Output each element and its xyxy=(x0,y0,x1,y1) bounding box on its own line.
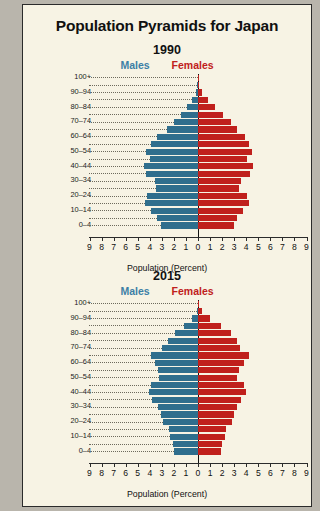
bar-female xyxy=(198,222,234,228)
leader-line xyxy=(89,159,150,160)
bar-male xyxy=(170,434,198,440)
bar-female xyxy=(198,434,225,440)
age-group-label: 20–24 xyxy=(31,190,91,199)
axis-tick xyxy=(150,463,151,467)
axis-tick xyxy=(198,237,199,241)
bar-female xyxy=(198,389,246,395)
axis-tick xyxy=(150,237,151,241)
axis-tick xyxy=(210,463,211,467)
leader-line xyxy=(89,311,197,312)
leader-line xyxy=(89,370,158,371)
bar-female xyxy=(198,215,237,221)
axis-tick xyxy=(138,237,139,241)
axis-tick-label: 9 xyxy=(300,468,314,478)
bar-rows-1990: 100+90–9480–8470–7460–6450–5440–4430–342… xyxy=(23,74,313,237)
bar-male xyxy=(146,171,198,177)
age-group-label: 40–44 xyxy=(31,387,91,396)
plot-area-2015: 100+90–9480–8470–7460–6450–5440–4430–342… xyxy=(23,300,311,463)
legend-males: Males xyxy=(120,59,149,71)
bar-male xyxy=(152,397,198,403)
axis-tick-label: 9 xyxy=(300,242,314,252)
axis-tick xyxy=(138,463,139,467)
axis-tick xyxy=(210,237,211,241)
axis-tick xyxy=(258,463,259,467)
bar-female xyxy=(198,404,237,410)
bar-male xyxy=(167,126,198,132)
age-group-label: 10–14 xyxy=(31,431,91,440)
leader-line xyxy=(89,399,152,400)
bar-female xyxy=(198,352,249,358)
leader-line xyxy=(89,451,174,452)
bar-male xyxy=(162,345,198,351)
bar-male xyxy=(151,382,198,388)
bar-female xyxy=(198,126,237,132)
bar-male xyxy=(157,215,198,221)
axis-tick xyxy=(294,463,295,467)
bar-female xyxy=(198,382,244,388)
leader-line xyxy=(89,348,162,349)
axis-tick xyxy=(307,237,308,241)
page-title: Population Pyramids for Japan xyxy=(23,17,311,35)
leader-line xyxy=(89,77,198,78)
leader-line xyxy=(89,196,147,197)
pyramid-row: 80–84 xyxy=(23,330,313,337)
bar-female xyxy=(198,426,226,432)
axis-tick xyxy=(186,463,187,467)
bar-female xyxy=(198,411,234,417)
axis-tick xyxy=(234,463,235,467)
pyramid-row: 10–14 xyxy=(23,207,313,214)
bar-female xyxy=(198,104,215,110)
pyramid-row: 60–64 xyxy=(23,359,313,366)
bar-male xyxy=(145,200,198,206)
bar-male xyxy=(144,163,198,169)
bar-female xyxy=(198,200,249,206)
bar-male xyxy=(156,185,198,191)
bar-female xyxy=(198,441,222,447)
leader-line xyxy=(89,407,158,408)
age-group-label: 20–24 xyxy=(31,416,91,425)
age-group-label: 50–54 xyxy=(31,146,91,155)
leader-line xyxy=(89,99,192,100)
bar-female xyxy=(198,315,210,321)
axis-tick xyxy=(174,463,175,467)
pyramid-row: 0–4 xyxy=(23,448,313,455)
bar-female xyxy=(198,419,232,425)
plot-area-1990: 100+90–9480–8470–7460–6450–5440–4430–342… xyxy=(23,74,311,237)
age-group-label: 70–74 xyxy=(31,342,91,351)
age-group-label: 90–94 xyxy=(31,313,91,322)
axis-tick xyxy=(198,463,199,467)
pyramid-row: 70–74 xyxy=(23,344,313,351)
leader-line xyxy=(89,340,168,341)
leader-line xyxy=(89,203,145,204)
axis-tick xyxy=(282,237,283,241)
axis-tick xyxy=(270,237,271,241)
bar-male xyxy=(161,222,198,228)
legend: MalesFemales xyxy=(23,58,311,72)
bar-male xyxy=(155,178,198,184)
chart-card: Population Pyramids for Japan 1990 Males… xyxy=(22,4,312,507)
bar-male xyxy=(174,119,198,125)
bar-female xyxy=(198,345,240,351)
age-group-label: 50–54 xyxy=(31,372,91,381)
pyramid-row: 50–54 xyxy=(23,148,313,155)
bar-female xyxy=(198,375,237,381)
pyramid-row: 30–34 xyxy=(23,403,313,410)
bar-female xyxy=(198,185,239,191)
age-group-label: 0–4 xyxy=(31,446,91,455)
pyramid-row: 20–24 xyxy=(23,418,313,425)
leader-line xyxy=(89,325,184,326)
leader-line xyxy=(89,318,192,319)
bar-male xyxy=(151,141,198,147)
axis-tick xyxy=(162,237,163,241)
axis-tick xyxy=(270,463,271,467)
age-group-label: 10–14 xyxy=(31,205,91,214)
axis-tick xyxy=(126,463,127,467)
leader-line xyxy=(89,355,151,356)
x-axis-title: Population (Percent) xyxy=(23,489,311,499)
bar-male xyxy=(173,441,198,447)
bar-female xyxy=(198,97,208,103)
axis-tick xyxy=(234,237,235,241)
leader-line xyxy=(89,92,196,93)
bar-male xyxy=(150,156,198,162)
leader-line xyxy=(89,151,146,152)
